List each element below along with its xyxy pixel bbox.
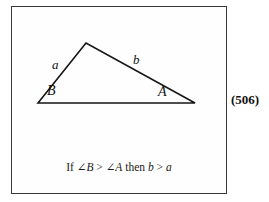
caption-angle-b: ∠B — [77, 161, 94, 173]
caption-prefix: If — [66, 161, 77, 173]
caption-middle: then — [122, 161, 148, 173]
vertex-label-b: B — [47, 84, 56, 98]
figure-container: B A a b If ∠B > ∠A then b > a (506) — [0, 0, 269, 202]
caption-side-a: a — [166, 161, 172, 173]
figure-number-label: (506) — [231, 92, 259, 108]
figure-caption: If ∠B > ∠A then b > a — [11, 160, 227, 174]
caption-angle-a: ∠A — [106, 161, 123, 173]
vertex-label-a: A — [158, 85, 167, 99]
side-label-b: b — [133, 53, 140, 66]
caption-gt-2: > — [154, 161, 166, 173]
caption-gt-1: > — [93, 161, 105, 173]
side-label-a: a — [52, 58, 59, 71]
